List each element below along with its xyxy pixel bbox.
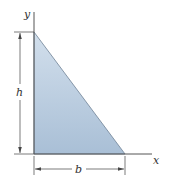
b-arrow-left-icon xyxy=(35,167,41,171)
y-axis-label: y xyxy=(23,8,31,21)
b-arrow-right-icon xyxy=(118,167,124,171)
h-arrow-up-icon xyxy=(18,33,22,39)
triangle-region xyxy=(34,32,125,154)
triangle-diagram: y x h b xyxy=(0,0,171,187)
x-axis-label: x xyxy=(153,154,160,167)
h-arrow-down-icon xyxy=(18,147,22,153)
b-dimension-label: b xyxy=(75,163,82,176)
h-dimension-label: h xyxy=(16,86,23,99)
